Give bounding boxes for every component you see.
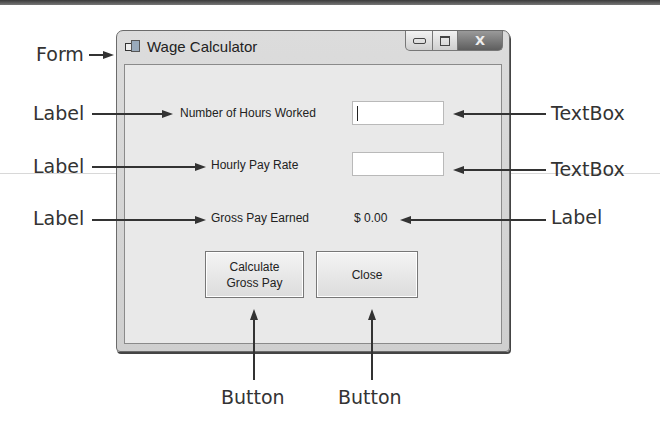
arrow-line — [92, 219, 195, 221]
arrow-right-icon — [195, 216, 206, 224]
gross-pay-label: Gross Pay Earned — [211, 211, 309, 225]
callout-label-rate: Label — [33, 157, 84, 176]
arrow-up-icon — [368, 309, 376, 320]
arrow-right-icon — [162, 110, 173, 118]
minimize-button[interactable] — [405, 31, 433, 51]
app-icon — [125, 40, 139, 52]
arrow-line — [92, 113, 162, 115]
arrow-left-icon — [453, 166, 464, 174]
callout-textbox-rate: TextBox — [551, 160, 625, 179]
maximize-icon — [440, 36, 450, 46]
window-title: Wage Calculator — [147, 38, 257, 55]
close-window-button[interactable]: X — [458, 31, 503, 51]
text-caret — [357, 106, 358, 121]
arrow-right-icon — [195, 163, 206, 171]
title-bar[interactable]: Wage Calculator X — [117, 31, 509, 63]
arrow-left-icon — [400, 216, 411, 224]
arrow-line — [253, 320, 255, 380]
gross-pay-value: $ 0.00 — [354, 211, 387, 225]
hours-textbox[interactable] — [352, 101, 444, 125]
hours-label: Number of Hours Worked — [180, 106, 316, 120]
close-button[interactable]: Close — [316, 251, 418, 298]
arrow-right-icon — [103, 51, 114, 59]
arrow-line — [371, 320, 373, 380]
arrow-line — [464, 113, 546, 115]
callout-label-hours: Label — [33, 104, 84, 123]
callout-button-close: Button — [338, 388, 402, 407]
arrow-line — [411, 219, 546, 221]
callout-label-gross: Label — [33, 209, 84, 228]
arrow-line — [464, 169, 546, 171]
arrow-left-icon — [453, 110, 464, 118]
calculate-gross-pay-button[interactable]: Calculate Gross Pay — [205, 251, 304, 298]
minimize-icon — [413, 38, 426, 44]
top-border — [0, 0, 660, 5]
maximize-button[interactable] — [433, 31, 458, 51]
callout-button-calculate: Button — [221, 388, 285, 407]
close-icon: X — [475, 33, 485, 48]
rate-textbox[interactable] — [352, 152, 444, 176]
callout-label-output: Label — [551, 208, 602, 227]
callout-form: Form — [36, 45, 84, 64]
arrow-line — [89, 54, 103, 56]
arrow-line — [92, 166, 195, 168]
wage-calculator-window: Wage Calculator X Number of Hours Worked… — [116, 30, 510, 352]
rate-label: Hourly Pay Rate — [211, 158, 298, 172]
arrow-up-icon — [250, 309, 258, 320]
callout-textbox-hours: TextBox — [551, 104, 625, 123]
form-client-area: Number of Hours Worked Hourly Pay Rate G… — [124, 64, 502, 344]
